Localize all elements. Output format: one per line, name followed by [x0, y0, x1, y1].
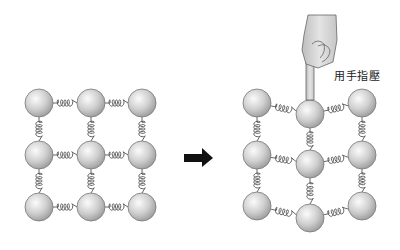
spring — [359, 169, 365, 192]
spring — [271, 207, 297, 216]
spring — [307, 128, 313, 150]
spring — [88, 169, 94, 193]
atom-ball — [348, 192, 376, 220]
atom-ball — [25, 141, 53, 169]
pressing-hand-icon — [302, 15, 337, 100]
atom-ball — [348, 89, 376, 117]
press-with-finger-label: 用手指壓 — [334, 67, 380, 83]
atom-ball — [128, 193, 156, 221]
spring — [53, 100, 77, 106]
atom-ball — [243, 141, 271, 169]
arrow-right-icon — [184, 148, 213, 167]
atom-ball — [128, 141, 156, 169]
spring — [324, 155, 348, 163]
spring — [271, 155, 296, 163]
atom-ball — [243, 192, 271, 220]
spring — [139, 117, 145, 141]
spring — [88, 117, 94, 141]
atom-ball — [77, 89, 105, 117]
spring — [139, 169, 145, 193]
spring — [105, 100, 128, 106]
lattice-diagram — [0, 0, 400, 250]
balls-left — [25, 89, 156, 221]
spring — [254, 169, 260, 192]
spring — [324, 104, 349, 113]
atom-ball — [296, 150, 324, 178]
spring — [271, 104, 297, 113]
spring — [359, 117, 365, 141]
spring — [53, 152, 77, 158]
atom-ball — [296, 204, 324, 232]
atom-ball — [128, 89, 156, 117]
atom-ball — [77, 141, 105, 169]
atom-ball — [77, 193, 105, 221]
atom-ball — [243, 89, 271, 117]
atom-ball — [296, 100, 324, 128]
spring — [36, 117, 42, 141]
spring — [53, 204, 77, 210]
balls-right — [243, 89, 376, 232]
spring — [36, 169, 42, 193]
spring — [324, 207, 349, 216]
spring — [105, 152, 128, 158]
atom-ball — [25, 89, 53, 117]
spring — [307, 178, 313, 204]
atom-ball — [348, 141, 376, 169]
spring — [105, 204, 128, 210]
spring — [254, 117, 260, 141]
atom-ball — [25, 193, 53, 221]
